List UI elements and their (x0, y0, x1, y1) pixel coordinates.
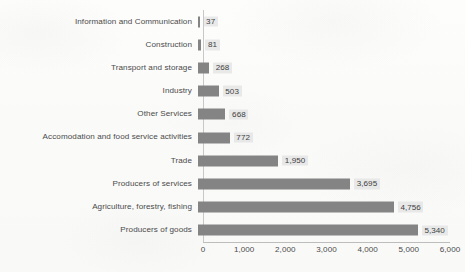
bar-row: Accomodation and food service activities… (0, 126, 465, 149)
category-label: Construction (0, 41, 198, 49)
x-tick-label: 5,000 (399, 246, 420, 254)
bar[interactable] (198, 86, 219, 97)
bar-value-label: 3,695 (354, 179, 380, 189)
x-tick-label: 2,000 (275, 246, 296, 254)
bar[interactable] (198, 155, 278, 166)
bar-area: 268 (198, 56, 465, 79)
x-axis-line (203, 242, 450, 243)
bar-area: 81 (198, 33, 465, 56)
bar-row: Industry503 (0, 80, 465, 103)
x-tick-label: 6,000 (440, 246, 461, 254)
category-label: Agriculture, forestry, fishing (0, 203, 198, 211)
bar-row: Producers of services3,695 (0, 172, 465, 195)
x-axis-ticks: 01,0002,0003,0004,0005,0006,000 (203, 246, 450, 262)
bar-value-label: 5,340 (422, 225, 448, 235)
bar-area: 37 (198, 10, 465, 33)
bar-area: 668 (198, 103, 465, 126)
x-tick-label: 0 (201, 246, 206, 254)
category-label: Producers of goods (0, 226, 198, 234)
bar-row: Producers of goods5,340 (0, 219, 465, 242)
bar-area: 3,695 (198, 172, 465, 195)
category-label: Producers of services (0, 180, 198, 188)
bar-area: 5,340 (198, 219, 465, 242)
bar-row: Transport and storage268 (0, 56, 465, 79)
bar-value-label: 772 (234, 132, 253, 142)
bar-value-label: 668 (229, 109, 248, 119)
chart-page: Information and Communication37Construct… (0, 0, 465, 272)
bar-value-label: 4,756 (398, 202, 424, 212)
category-label: Information and Communication (0, 18, 198, 26)
bar-value-label: 1,950 (282, 155, 308, 165)
horizontal-bar-chart: Information and Communication37Construct… (0, 0, 465, 272)
bar-value-label: 268 (213, 63, 232, 73)
category-label: Transport and storage (0, 64, 198, 72)
category-label: Trade (0, 157, 198, 165)
bar-row: Other Services668 (0, 103, 465, 126)
bar-area: 1,950 (198, 149, 465, 172)
bar[interactable] (198, 132, 230, 143)
bar[interactable] (198, 16, 200, 27)
x-tick-label: 4,000 (357, 246, 378, 254)
bar-area: 503 (198, 80, 465, 103)
category-label: Industry (0, 87, 198, 95)
category-label: Other Services (0, 110, 198, 118)
bar-value-label: 503 (223, 86, 242, 96)
bar-row: Construction81 (0, 33, 465, 56)
bar-area: 4,756 (198, 196, 465, 219)
bar[interactable] (198, 62, 209, 73)
bar-value-label: 81 (205, 40, 219, 50)
bar[interactable] (198, 39, 201, 50)
bar-row: Agriculture, forestry, fishing4,756 (0, 196, 465, 219)
bar[interactable] (198, 202, 394, 213)
bar-row: Information and Communication37 (0, 10, 465, 33)
x-tick-label: 3,000 (316, 246, 337, 254)
bar[interactable] (198, 109, 225, 120)
bar-row: Trade1,950 (0, 149, 465, 172)
bar-rows: Information and Communication37Construct… (0, 10, 465, 242)
x-tick-label: 1,000 (234, 246, 255, 254)
bar-value-label: 37 (204, 16, 218, 26)
bar[interactable] (198, 225, 418, 236)
bar[interactable] (198, 178, 350, 189)
bar-area: 772 (198, 126, 465, 149)
category-label: Accomodation and food service activities (0, 133, 198, 141)
